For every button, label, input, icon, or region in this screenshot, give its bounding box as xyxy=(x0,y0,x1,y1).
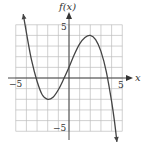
x-tick-min: −5 xyxy=(9,79,23,89)
x-axis-label: x xyxy=(135,72,141,83)
x-tick-max: 5 xyxy=(118,80,124,90)
x-axis-arrow-icon xyxy=(126,75,133,81)
y-tick-max: 5 xyxy=(61,22,67,32)
y-tick-min: −5 xyxy=(53,123,67,133)
y-axis-label: f(x) xyxy=(58,1,76,12)
y-axis-arrow-icon xyxy=(66,12,72,19)
curve-start-arrow-icon xyxy=(22,14,27,19)
function-graph: f(x) x −5 5 5 −5 xyxy=(0,0,145,154)
